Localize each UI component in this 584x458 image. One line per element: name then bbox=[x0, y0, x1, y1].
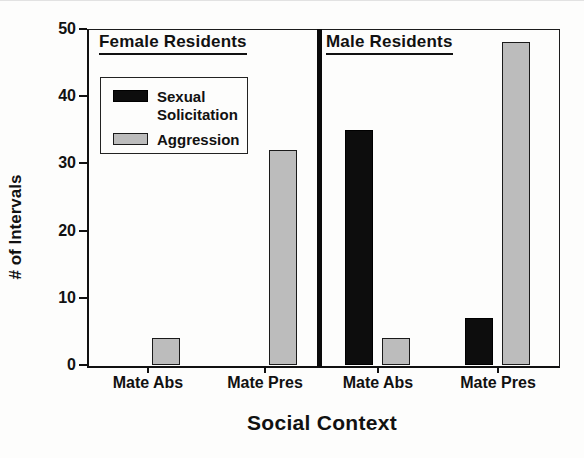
legend-label: Sexual Solicitation bbox=[157, 88, 243, 124]
panel-title-female-residents: Female Residents bbox=[99, 32, 247, 55]
y-axis-tick bbox=[79, 28, 87, 30]
y-axis-tick bbox=[79, 230, 87, 232]
y-axis-tick-label: 50 bbox=[42, 21, 76, 37]
legend-item-aggression: Aggression bbox=[113, 131, 247, 149]
x-axis-title: Social Context bbox=[247, 411, 397, 435]
y-axis-tick-label: 40 bbox=[42, 88, 76, 104]
y-axis-tick bbox=[79, 297, 87, 299]
y-axis-tick bbox=[79, 95, 87, 97]
figure: Female Residents Male Residents Sexual S… bbox=[0, 0, 584, 458]
bar-aggression bbox=[502, 42, 530, 365]
y-axis-tick-label: 20 bbox=[42, 223, 76, 239]
y-axis-tick-label: 30 bbox=[42, 155, 76, 171]
panel-divider-line bbox=[317, 29, 322, 367]
y-axis-tick-label: 10 bbox=[42, 290, 76, 306]
x-axis-tick bbox=[377, 367, 379, 373]
bar-aggression bbox=[152, 338, 180, 365]
x-axis-tick bbox=[264, 367, 266, 373]
legend: Sexual Solicitation Aggression bbox=[100, 77, 248, 154]
legend-label: Aggression bbox=[157, 131, 243, 149]
legend-swatch-black-icon bbox=[113, 90, 148, 102]
x-axis-category-label: Mate Pres bbox=[210, 374, 320, 392]
bar-aggression bbox=[382, 338, 410, 365]
y-axis-tick-label: 0 bbox=[42, 357, 76, 373]
bar-aggression bbox=[269, 150, 297, 365]
x-axis-tick bbox=[497, 367, 499, 373]
bar-sexual-solicitation bbox=[465, 318, 493, 365]
x-axis-category-label: Mate Abs bbox=[93, 374, 203, 392]
x-axis-category-label: Mate Pres bbox=[443, 374, 553, 392]
x-axis-tick bbox=[147, 367, 149, 373]
y-axis-tick bbox=[79, 364, 87, 366]
legend-item-sexual-solicitation: Sexual Solicitation bbox=[113, 88, 247, 124]
y-axis-tick bbox=[79, 162, 87, 164]
bar-sexual-solicitation bbox=[345, 130, 373, 365]
panel-title-male-residents: Male Residents bbox=[326, 32, 453, 55]
y-axis-title: # of Intervals bbox=[6, 162, 26, 292]
x-axis-category-label: Mate Abs bbox=[323, 374, 433, 392]
legend-swatch-stipple-icon bbox=[113, 133, 148, 145]
